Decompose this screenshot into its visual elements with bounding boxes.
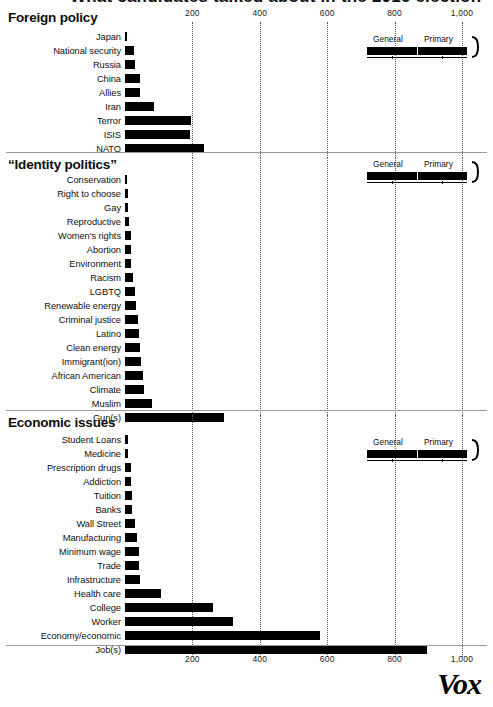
bar-label: Iran (105, 100, 121, 114)
legend-label-general: General (373, 159, 403, 169)
bar-row: Health care (0, 587, 493, 601)
bar-row: NATO (0, 142, 493, 156)
bar-label: Muslim (92, 397, 121, 411)
bar-row: Criminal justice (0, 313, 493, 327)
bar-label: African American (52, 369, 121, 383)
bar (125, 491, 132, 500)
legend-swatch-divider (417, 172, 418, 180)
bar-label: China (97, 72, 121, 86)
bar-row: Women's rights (0, 229, 493, 243)
chart-supertitle: What candidates talked about in the 2016… (70, 0, 481, 7)
bar-label: Wall Street (76, 517, 121, 531)
bar (125, 315, 138, 324)
bar-label: LGBTQ (90, 285, 121, 299)
bar-label: Women's rights (58, 229, 121, 243)
bar-row: Worker (0, 615, 493, 629)
panel-divider-1 (6, 152, 487, 153)
bar (125, 88, 140, 97)
bar-label: Terror (97, 114, 121, 128)
legend-labels: General Primary (367, 159, 467, 171)
legend-tick-primary (442, 56, 443, 59)
bar-row: Racism (0, 271, 493, 285)
bottom-axis-rule (6, 645, 487, 646)
bar-label: Addiction (83, 475, 121, 489)
bar-label: Infrastructure (67, 573, 121, 587)
legend-label-primary: Primary (424, 159, 453, 169)
bar-row: China (0, 72, 493, 86)
bar (125, 130, 190, 139)
bar (125, 74, 140, 83)
bar (125, 533, 137, 542)
bar (125, 287, 135, 296)
bar (125, 203, 128, 212)
bar-label: Economy/economic (41, 629, 121, 643)
legend-label-general: General (373, 437, 403, 447)
legend-brace-icon (471, 36, 479, 58)
bar-label: Worker (92, 615, 122, 629)
bar (125, 385, 144, 394)
bar-row: Clean energy (0, 341, 493, 355)
bar-row: Addiction (0, 475, 493, 489)
bar (125, 519, 135, 528)
bar (125, 60, 135, 69)
bar-row: Manufacturing (0, 531, 493, 545)
bar-label: Student Loans (62, 433, 121, 447)
bar-row: Wall Street (0, 517, 493, 531)
bar-row: Gay (0, 201, 493, 215)
legend-swatch-divider (417, 450, 418, 458)
bar-row: Reproductive (0, 215, 493, 229)
bar-row: Terror (0, 114, 493, 128)
legend-label-primary: Primary (424, 437, 453, 447)
bar (125, 371, 143, 380)
bar-row: Economy/economic (0, 629, 493, 643)
bar-row: Latino (0, 327, 493, 341)
axis-tick-label-800: 800 (387, 8, 402, 18)
bar-label: Latino (96, 327, 121, 341)
bar (125, 231, 131, 240)
bottom-axis-tick-label-800: 800 (387, 654, 402, 664)
bar-label: Criminal justice (59, 313, 121, 327)
plot-area: 2004006008001,000JapanNational securityR… (0, 8, 493, 154)
bar (125, 645, 427, 654)
bar (125, 102, 154, 111)
bottom-axis-tick-label-1000: 1,000 (451, 654, 473, 664)
bar-row: Infrastructure (0, 573, 493, 587)
bar (125, 175, 127, 184)
bar-row: ISIS (0, 128, 493, 142)
bar (125, 575, 140, 584)
axis-tick-label-200: 200 (185, 8, 200, 18)
legend-brace-icon (471, 161, 479, 183)
bar-row: Iran (0, 100, 493, 114)
bar-label: Minimum wage (59, 545, 121, 559)
bar (125, 46, 134, 55)
bar (125, 617, 233, 626)
legend-baseline (367, 460, 467, 461)
bar (125, 273, 133, 282)
legend-tick-general (392, 181, 393, 184)
panel-economic-issues: Economic issues Student LoansMedicinePre… (0, 413, 493, 643)
bar-label: Health care (74, 587, 121, 601)
vox-logo: Vox (437, 669, 481, 699)
bar (125, 259, 131, 268)
bar-label: Medicine (84, 447, 121, 461)
bar (125, 399, 152, 408)
bar-label: National security (53, 44, 121, 58)
bar-label: Immigrant(ion) (62, 355, 121, 369)
bar (125, 435, 128, 444)
bar-row: College (0, 601, 493, 615)
bar-row: LGBTQ (0, 285, 493, 299)
bar-label: Russia (93, 58, 121, 72)
legend-baseline (367, 182, 467, 183)
axis-tick-label-400: 400 (252, 8, 267, 18)
legend: General Primary (367, 437, 483, 471)
bar (125, 357, 141, 366)
infographic-canvas: What candidates talked about in the 2016… (0, 0, 493, 707)
bar-row: Allies (0, 86, 493, 100)
bar (125, 116, 191, 125)
bar-label: Tuition (94, 489, 121, 503)
bar-label: Gay (104, 201, 121, 215)
legend-label-general: General (373, 34, 403, 44)
bar (125, 32, 127, 41)
panel-foreign-policy: Foreign policy 2004006008001,000JapanNat… (0, 8, 493, 154)
legend-labels: General Primary (367, 34, 467, 46)
